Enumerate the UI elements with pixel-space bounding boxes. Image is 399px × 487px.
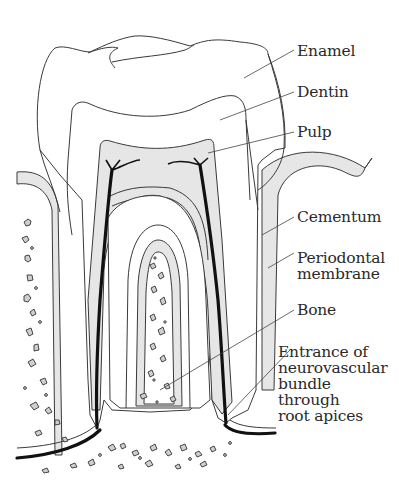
label-neurovascular-entrance: Entrance of neurovascular bundle through…: [278, 344, 388, 424]
label-line: Enamel: [297, 43, 355, 59]
label-periodontal-membrane: Periodontal membrane: [297, 250, 385, 282]
tooth-diagram: Enamel Dentin Pulp Cementum Periodontal …: [0, 0, 399, 487]
label-dentin: Dentin: [297, 84, 349, 100]
label-line: Entrance of: [278, 344, 388, 360]
label-line: Cementum: [297, 209, 381, 225]
label-line: neurovascular: [278, 360, 388, 376]
label-line: Dentin: [297, 84, 349, 100]
label-cementum: Cementum: [297, 209, 381, 225]
label-line: bundle: [278, 376, 388, 392]
label-line: membrane: [297, 266, 385, 282]
label-line: Bone: [297, 302, 336, 318]
label-pulp: Pulp: [297, 124, 332, 140]
label-bone: Bone: [297, 302, 336, 318]
label-line: through: [278, 392, 388, 408]
label-line: Periodontal: [297, 250, 385, 266]
label-line: root apices: [278, 408, 388, 424]
label-enamel: Enamel: [297, 43, 355, 59]
label-line: Pulp: [297, 124, 332, 140]
